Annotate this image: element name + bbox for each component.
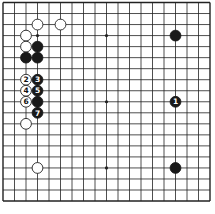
- black-stone: [32, 96, 43, 107]
- star-point-icon: [36, 34, 39, 37]
- white-stone-icon: [21, 41, 32, 52]
- black-stone: 5: [32, 85, 43, 96]
- move-number-label: 6: [23, 97, 28, 106]
- white-stone: [21, 30, 32, 41]
- star-point-icon: [105, 34, 108, 37]
- black-stone-icon: [32, 41, 43, 52]
- black-stone-icon: [170, 163, 181, 174]
- move-number-label: 7: [35, 109, 40, 118]
- move-number-label: 5: [35, 86, 40, 95]
- stones-layer: 2345671: [21, 19, 181, 173]
- white-stone: [55, 19, 66, 30]
- move-number-label: 2: [23, 75, 28, 84]
- black-stone-icon: [170, 30, 181, 41]
- move-number-label: 3: [35, 75, 40, 84]
- white-stone: 4: [21, 85, 32, 96]
- white-stone: 6: [21, 96, 32, 107]
- black-stone: [170, 30, 181, 41]
- black-stone: 3: [32, 74, 43, 85]
- white-stone: [21, 41, 32, 52]
- white-stone-icon: [21, 118, 32, 129]
- white-stone: [32, 163, 43, 174]
- go-board: 2345671: [0, 0, 215, 214]
- white-stone-icon: [32, 163, 43, 174]
- black-stone-icon: [32, 96, 43, 107]
- black-stone: [21, 52, 32, 63]
- white-stone: [32, 19, 43, 30]
- black-stone: 1: [170, 96, 181, 107]
- black-stone: [170, 163, 181, 174]
- white-stone: [21, 118, 32, 129]
- white-stone: 2: [21, 74, 32, 85]
- black-stone: [32, 41, 43, 52]
- black-stone: 7: [32, 107, 43, 118]
- white-stone-icon: [32, 19, 43, 30]
- white-stone-icon: [55, 19, 66, 30]
- black-stone-icon: [21, 52, 32, 63]
- star-point-icon: [105, 100, 108, 103]
- move-number-label: 4: [23, 86, 28, 95]
- star-point-icon: [105, 166, 108, 169]
- move-number-label: 1: [173, 97, 178, 106]
- white-stone-icon: [21, 30, 32, 41]
- black-stone-icon: [32, 52, 43, 63]
- black-stone: [32, 52, 43, 63]
